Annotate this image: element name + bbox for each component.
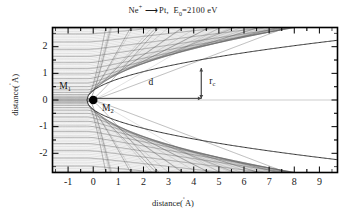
x-tick-label: 9 <box>309 176 329 187</box>
m2-atom-marker <box>89 96 98 105</box>
x-tick-label: -1 <box>58 176 78 187</box>
y-axis-label-close: ) <box>10 74 20 77</box>
y-axis-label-text: distance( <box>10 85 20 116</box>
x-tick-label: 4 <box>184 176 204 187</box>
y-axis-unit: A <box>10 77 20 83</box>
x-tick-label: 2 <box>133 176 153 187</box>
x-axis-label: distance(˚A) <box>0 196 346 208</box>
y-tick-label: 1 <box>28 67 48 78</box>
angstrom-ring-y: ˚ <box>8 83 15 85</box>
y-tick-label: 0 <box>28 94 48 105</box>
y-tick-label: -1 <box>28 120 48 131</box>
x-axis-label-text: distance( <box>152 198 183 208</box>
y-tick-label: -2 <box>28 147 48 158</box>
x-tick-label: 7 <box>259 176 279 187</box>
title-target: Pt, <box>159 5 169 15</box>
x-tick-label: 5 <box>209 176 229 187</box>
title-projectile: Ne <box>128 5 138 15</box>
x-tick-label: 6 <box>234 176 254 187</box>
title-arrow: ⟶ <box>145 5 157 15</box>
x-tick-label: 1 <box>108 176 128 187</box>
d-label: d <box>149 77 154 87</box>
title-charge: + <box>139 4 143 10</box>
plot-title: Ne+ ⟶ Pt, E0=2100 eV <box>0 4 346 17</box>
y-axis-label: distance(˚A) <box>8 45 20 145</box>
y-tick-label: 2 <box>28 40 48 51</box>
title-energy-value: =2100 eV <box>182 5 217 15</box>
x-tick-label: 3 <box>159 176 179 187</box>
x-tick-label: 0 <box>83 176 103 187</box>
x-axis-label-close: ) <box>191 198 194 208</box>
x-tick-label: 8 <box>284 176 304 187</box>
